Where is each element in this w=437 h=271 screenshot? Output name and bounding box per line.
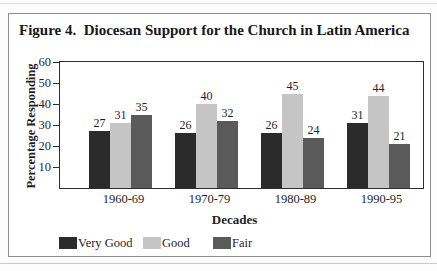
legend-swatch-very-good: [59, 237, 77, 249]
figure-box: Figure 4. Diocesan Support for the Churc…: [8, 13, 431, 257]
y-tick-label: 60: [18, 54, 51, 70]
plot-area: 102030405060272626313140454435322421: [59, 61, 424, 189]
y-tick-label: 30: [18, 117, 51, 133]
bar-fair-1990-95: [389, 144, 410, 188]
x-tick-label-1980-89: 1980-89: [261, 192, 331, 207]
bar-value-label: 21: [385, 130, 415, 143]
bar-value-label: 35: [127, 101, 157, 114]
bar-very-good-1990-95: [347, 123, 368, 188]
bar-very-good-1980-89: [261, 133, 282, 188]
bar-good-1980-89: [282, 94, 303, 189]
y-tick-label: 50: [18, 75, 51, 91]
bar-value-label: 24: [299, 124, 329, 137]
legend-swatch-fair: [213, 237, 231, 249]
legend-label-fair: Fair: [232, 236, 252, 251]
y-tick-mark: [53, 125, 59, 126]
bar-fair-1970-79: [217, 121, 238, 188]
scanned-page: Figure 4. Diocesan Support for the Churc…: [0, 0, 437, 271]
top-rule: [0, 3, 437, 4]
bar-value-label: 40: [192, 90, 222, 103]
bar-value-label: 44: [364, 82, 394, 95]
y-tick-label: 40: [18, 96, 51, 112]
x-tick-label-1960-69: 1960-69: [89, 192, 159, 207]
y-tick-label: 20: [18, 138, 51, 154]
y-tick-mark: [53, 62, 59, 63]
bottom-rule: [0, 263, 437, 264]
bar-good-1960-69: [110, 123, 131, 188]
figure-title: Figure 4. Diocesan Support for the Churc…: [19, 22, 409, 39]
x-axis-labels: 1960-691970-791980-891990-95: [59, 192, 422, 208]
bar-very-good-1970-79: [175, 133, 196, 188]
y-tick-mark: [53, 167, 59, 168]
y-tick-mark: [53, 104, 59, 105]
bar-fair-1980-89: [303, 138, 324, 188]
x-axis-title: Decades: [53, 212, 416, 228]
y-tick-mark: [53, 83, 59, 84]
bar-very-good-1960-69: [89, 131, 110, 188]
legend-label-very-good: Very Good: [78, 236, 133, 251]
bar-fair-1960-69: [131, 115, 152, 189]
bar-value-label: 32: [213, 107, 243, 120]
legend: Very GoodGoodFair: [9, 236, 430, 254]
bar-value-label: 45: [278, 80, 308, 93]
y-tick-label: 10: [18, 159, 51, 175]
y-tick-mark: [53, 146, 59, 147]
legend-label-good: Good: [162, 236, 190, 251]
x-tick-label-1990-95: 1990-95: [347, 192, 417, 207]
x-tick-label-1970-79: 1970-79: [175, 192, 245, 207]
legend-swatch-good: [143, 237, 161, 249]
